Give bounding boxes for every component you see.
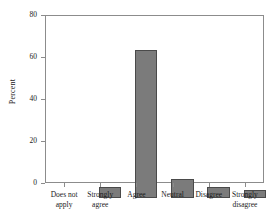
y-axis-title-text: Percent — [9, 79, 18, 104]
y-tick-label: 40 — [30, 94, 38, 103]
x-axis-label-line2: disagree — [224, 200, 266, 210]
bar-chart-figure: Percent 020406080 Does notapplyStronglya… — [0, 0, 275, 222]
x-axis-label-5: Stronglydisagree — [224, 190, 266, 209]
x-tick-mark-0 — [64, 183, 65, 187]
x-axis-label-line2: agree — [79, 200, 121, 210]
bars-layer — [92, 32, 275, 198]
plot-area — [45, 15, 264, 183]
y-axis-title: Percent — [4, 0, 22, 183]
bar-1[interactable] — [135, 32, 157, 198]
x-tick-mark-2 — [136, 183, 137, 187]
bar-0[interactable] — [99, 32, 121, 198]
y-tick-label: 0 — [33, 178, 37, 187]
bar-2[interactable] — [171, 32, 193, 198]
y-tick-label: 60 — [30, 52, 38, 61]
x-tick-mark-4 — [209, 183, 210, 187]
bar-rect — [135, 50, 157, 198]
y-tick-mark — [41, 183, 45, 184]
x-axis-label-line1: Strongly — [224, 190, 266, 200]
bar-4[interactable] — [244, 32, 266, 198]
y-tick-label: 20 — [30, 136, 38, 145]
y-tick-label: 80 — [30, 10, 38, 19]
bar-3[interactable] — [207, 32, 229, 198]
x-tick-mark-3 — [173, 183, 174, 187]
x-tick-mark-1 — [100, 183, 101, 187]
x-tick-mark-5 — [245, 183, 246, 187]
